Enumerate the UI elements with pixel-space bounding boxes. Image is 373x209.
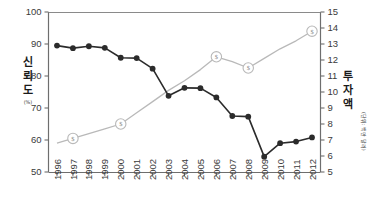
reliability-marker bbox=[229, 113, 235, 119]
right-tick-label: 12 bbox=[328, 54, 339, 65]
right-tick-label: 9 bbox=[328, 102, 333, 113]
left-tick-label: 100 bbox=[26, 6, 42, 17]
x-tick-label: 2011 bbox=[291, 160, 302, 180]
reliability-marker bbox=[277, 140, 283, 146]
axes-group bbox=[49, 12, 321, 173]
reliability-marker bbox=[293, 139, 299, 145]
right-tick-label: 15 bbox=[328, 6, 339, 17]
reliability-marker bbox=[118, 55, 124, 61]
x-tick-label: 2008 bbox=[243, 159, 254, 180]
right-axis-title-char-1: 투 bbox=[343, 70, 353, 83]
right-tick-label: 10 bbox=[328, 86, 339, 97]
x-tick-label: 1996 bbox=[52, 159, 63, 180]
x-tick-label: 2004 bbox=[179, 159, 190, 180]
x-axis-ticks: 1996199719981999200020012002200320042005… bbox=[52, 159, 318, 180]
reliability-marker bbox=[198, 85, 204, 91]
reliability-marker bbox=[213, 95, 219, 101]
x-tick-label: 2009 bbox=[259, 159, 270, 180]
line-chart: 5060708090100 56789101112131415 19961997… bbox=[0, 0, 373, 209]
x-tick-label: 2002 bbox=[147, 159, 158, 180]
right-axis-title-char-2: 자 bbox=[343, 83, 354, 97]
reliability-marker bbox=[261, 154, 267, 160]
right-tick-label: 13 bbox=[328, 38, 339, 49]
right-tick-label: 14 bbox=[328, 22, 339, 33]
x-tick-label: 1998 bbox=[83, 159, 94, 180]
reliability-marker bbox=[86, 43, 92, 49]
left-tick-label: 90 bbox=[31, 38, 42, 49]
x-tick-label: 2005 bbox=[195, 159, 206, 180]
right-tick-label: 8 bbox=[328, 118, 333, 129]
reliability-marker bbox=[182, 85, 188, 91]
x-tick-label: 2006 bbox=[211, 159, 222, 180]
right-tick-label: 11 bbox=[328, 70, 338, 81]
reliability-marker bbox=[166, 93, 172, 99]
series-reliability bbox=[54, 43, 315, 160]
right-tick-label: 5 bbox=[328, 166, 333, 177]
left-axis-title-char-2: 뢰 bbox=[23, 69, 33, 83]
x-tick-label: 1999 bbox=[99, 159, 110, 180]
x-tick-label: 2012 bbox=[307, 159, 318, 180]
reliability-marker bbox=[54, 43, 60, 49]
x-tick-label: 1997 bbox=[68, 159, 79, 180]
chart-container: 5060708090100 56789101112131415 19961997… bbox=[0, 0, 373, 209]
left-axis-unit: (%) bbox=[24, 99, 33, 105]
right-tick-label: 7 bbox=[328, 134, 333, 145]
x-tick-label: 2000 bbox=[115, 159, 126, 180]
left-tick-label: 70 bbox=[31, 102, 42, 113]
reliability-marker bbox=[245, 114, 251, 120]
left-axis-title-char-1: 신 bbox=[23, 55, 33, 69]
right-axis-title-char-3: 액 bbox=[343, 98, 353, 111]
right-axis-title-group: 투 자 액 (단위: 백만 달러) bbox=[343, 70, 367, 151]
left-tick-label: 50 bbox=[31, 166, 42, 177]
reliability-marker bbox=[309, 135, 315, 141]
right-axis-ticks: 56789101112131415 bbox=[321, 6, 339, 177]
x-tick-label: 2007 bbox=[227, 159, 238, 180]
left-axis-title-char-3: 도 bbox=[23, 84, 33, 97]
series-investment: $$$$$ bbox=[57, 26, 317, 144]
x-tick-label: 2001 bbox=[131, 159, 142, 180]
reliability-marker bbox=[150, 66, 156, 72]
reliability-marker bbox=[134, 55, 140, 61]
x-tick-label: 2003 bbox=[163, 159, 174, 180]
reliability-marker bbox=[70, 45, 76, 51]
reliability-marker bbox=[102, 45, 108, 51]
left-tick-label: 60 bbox=[31, 134, 42, 145]
right-axis-unit: (단위: 백만 달러) bbox=[360, 112, 367, 151]
right-tick-label: 6 bbox=[328, 150, 333, 161]
x-tick-label: 2010 bbox=[275, 159, 286, 180]
left-axis-title-group: 신 뢰 도 (%) bbox=[23, 55, 33, 105]
